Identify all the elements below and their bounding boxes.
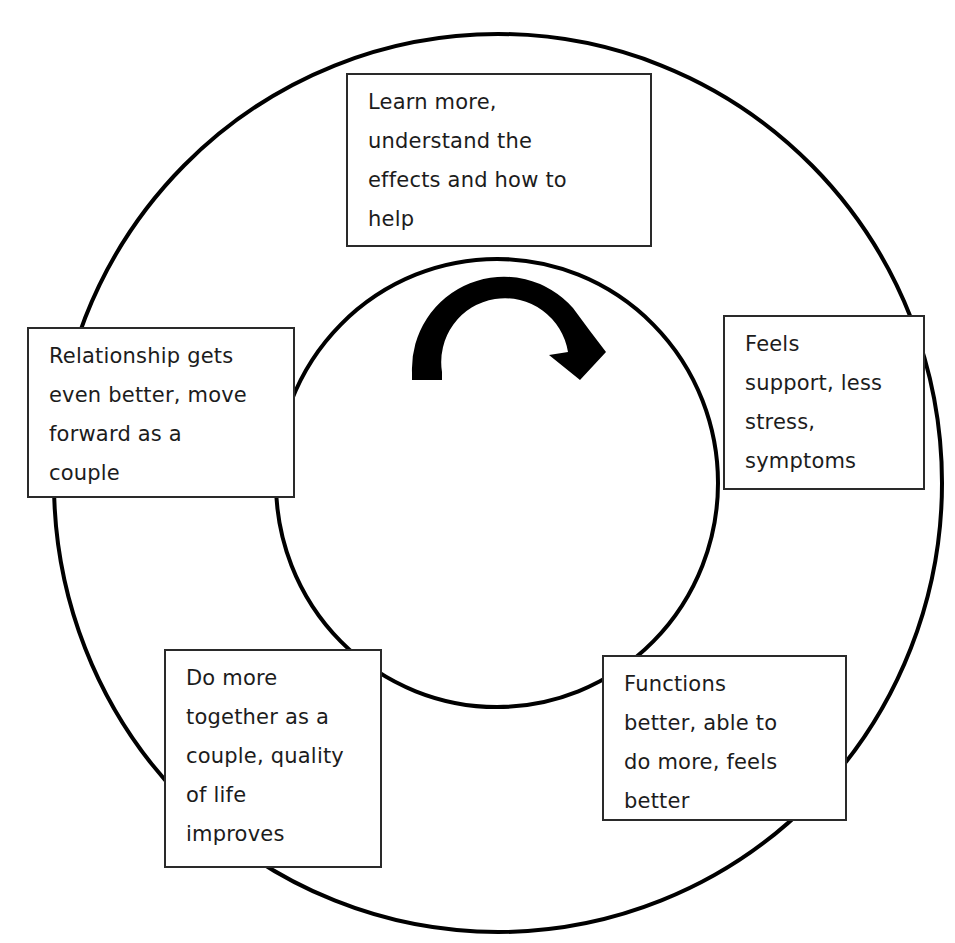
step-text-line: do more, feels (624, 743, 845, 782)
step-text-line: even better, move (49, 376, 293, 415)
cycle-step-right: Feels support, less stress, symptoms (723, 315, 925, 490)
step-text-line: better (624, 782, 845, 821)
step-text-line: support, less (745, 364, 923, 403)
clockwise-curved-arrow-icon (412, 277, 606, 380)
step-text-line: Feels (745, 325, 923, 364)
step-text-line: Learn more, (368, 83, 650, 122)
step-text-line: improves (186, 815, 380, 854)
step-text-line: help (368, 200, 650, 239)
step-text-line: of life (186, 776, 380, 815)
step-text-line: better, able to (624, 704, 845, 743)
step-text-line: stress, (745, 403, 923, 442)
inner-ring (276, 259, 718, 707)
step-text-line: together as a (186, 698, 380, 737)
cycle-step-left: Relationship gets even better, move forw… (27, 327, 295, 498)
step-text-line: forward as a (49, 415, 293, 454)
step-text-line: symptoms (745, 442, 923, 481)
step-text-line: understand the (368, 122, 650, 161)
cycle-step-top: Learn more, understand the effects and h… (346, 73, 652, 247)
cycle-step-bottom-right: Functions better, able to do more, feels… (602, 655, 847, 821)
cycle-step-bottom-left: Do more together as a couple, quality of… (164, 649, 382, 868)
step-text-line: effects and how to (368, 161, 650, 200)
step-text-line: Relationship gets (49, 337, 293, 376)
step-text-line: couple, quality (186, 737, 380, 776)
step-text-line: Functions (624, 665, 845, 704)
step-text-line: couple (49, 454, 293, 493)
step-text-line: Do more (186, 659, 380, 698)
